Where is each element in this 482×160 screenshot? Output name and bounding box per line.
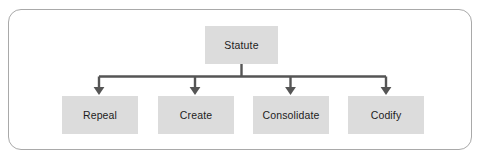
node-statute: Statute [205, 26, 278, 64]
node-statute-label: Statute [224, 40, 258, 51]
node-create: Create [158, 96, 234, 134]
node-codify: Codify [348, 96, 424, 134]
node-codify-label: Codify [371, 110, 402, 121]
node-create-label: Create [180, 110, 212, 121]
node-consolidate-label: Consolidate [262, 110, 319, 121]
diagram-figure: Statute Repeal Create Consolidate Codify [0, 0, 482, 160]
node-consolidate: Consolidate [253, 96, 329, 134]
node-repeal-label: Repeal [83, 110, 117, 121]
node-repeal: Repeal [62, 96, 138, 134]
